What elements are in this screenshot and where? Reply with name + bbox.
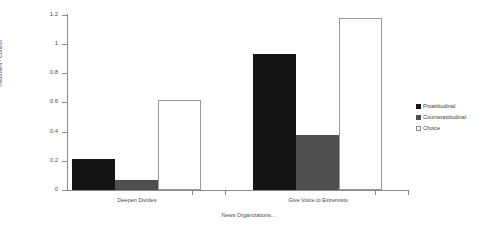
x-separator-tick	[225, 190, 226, 195]
x-separator-tick	[192, 190, 193, 195]
x-category-label-give-voice: Give Voice to Extremists	[288, 196, 348, 205]
x-axis-title: News Organizations...	[0, 211, 487, 220]
x-category-label-deepen-divides: Deepen Divides	[118, 196, 157, 205]
legend-item-counterattitudinal: Counterattitudinal	[416, 112, 466, 123]
y-tick-label: 0.2	[50, 156, 62, 165]
bar-deepen-divides-counterattitudinal	[115, 180, 158, 190]
y-axis-title: Treatment - Control	[0, 24, 4, 104]
legend-label: Proattitudinal	[423, 102, 455, 111]
y-tick-label: 0	[55, 185, 62, 194]
legend-item-proattitudinal: Proattitudinal	[416, 101, 466, 112]
legend-swatch-icon	[416, 104, 421, 109]
x-axis-line	[67, 190, 409, 191]
bar-chart: 1.2 1 0.8 0.6 0.4 0.2 0 Treatment - Cont…	[0, 0, 487, 230]
legend: Proattitudinal Counterattitudinal Choice	[416, 101, 466, 134]
y-tick-label: 1.2	[50, 10, 62, 19]
y-tick-label: 0.8	[50, 68, 62, 77]
y-tick-label: 0.6	[50, 97, 62, 106]
y-tick-0: 0	[62, 190, 67, 191]
x-separator-tick	[375, 190, 376, 195]
legend-label: Choice	[423, 124, 440, 133]
legend-swatch-icon	[416, 126, 421, 131]
bar-give-voice-proattitudinal	[253, 54, 296, 190]
x-separator-tick	[408, 190, 409, 195]
plot-area	[67, 15, 408, 190]
bar-deepen-divides-choice	[158, 100, 201, 190]
bar-deepen-divides-proattitudinal	[72, 159, 115, 190]
legend-swatch-icon	[416, 115, 421, 120]
legend-item-choice: Choice	[416, 123, 466, 134]
bar-give-voice-choice	[339, 18, 382, 190]
bar-give-voice-counterattitudinal	[296, 135, 339, 190]
y-tick-label: 0.4	[50, 127, 62, 136]
legend-label: Counterattitudinal	[423, 113, 466, 122]
y-tick-label: 1	[55, 39, 62, 48]
